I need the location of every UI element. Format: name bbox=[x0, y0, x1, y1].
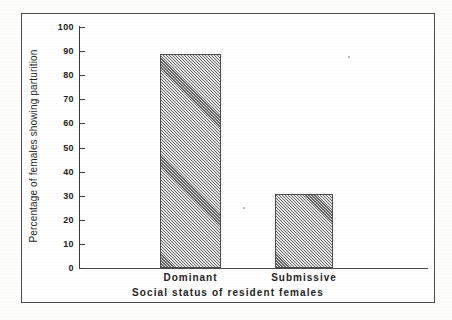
y-axis-tick-label: 40 bbox=[46, 168, 74, 177]
y-axis-tick-label: 0 bbox=[46, 264, 74, 273]
x-axis-category-label: Submissive bbox=[244, 272, 364, 283]
y-axis-title: Percentage of females showing parturitio… bbox=[28, 50, 39, 243]
y-axis-tick bbox=[80, 27, 85, 28]
figure: 0102030405060708090100 DominantSubmissiv… bbox=[0, 0, 452, 320]
y-axis-tick-label: 20 bbox=[46, 216, 74, 225]
y-axis-tick bbox=[80, 99, 85, 100]
scan-speck bbox=[348, 56, 350, 58]
y-axis-tick bbox=[80, 220, 85, 221]
y-axis-tick-label: 90 bbox=[46, 47, 74, 56]
scan-speck bbox=[243, 207, 245, 209]
y-axis-tick bbox=[80, 172, 85, 173]
y-axis-tick-label: 60 bbox=[46, 119, 74, 128]
y-axis-tick-label: 10 bbox=[46, 240, 74, 249]
y-axis-tick bbox=[80, 148, 85, 149]
plot-area: 0102030405060708090100 DominantSubmissiv… bbox=[0, 0, 452, 320]
bar bbox=[160, 54, 221, 268]
y-axis-tick bbox=[80, 75, 85, 76]
bar bbox=[275, 194, 333, 268]
y-axis-tick bbox=[80, 196, 85, 197]
y-axis-tick-label: 50 bbox=[46, 144, 74, 153]
y-axis-title-wrapper: Percentage of females showing parturitio… bbox=[24, 24, 42, 268]
x-axis-category-label: Dominant bbox=[131, 272, 251, 283]
y-axis-tick bbox=[80, 244, 85, 245]
x-axis-title: Social status of resident females bbox=[21, 287, 435, 298]
y-axis-tick bbox=[80, 123, 85, 124]
y-axis-tick-label: 80 bbox=[46, 71, 74, 80]
y-axis-tick-label: 30 bbox=[46, 192, 74, 201]
y-axis-tick-label: 100 bbox=[46, 23, 74, 32]
y-axis-tick-label: 70 bbox=[46, 95, 74, 104]
x-axis-line bbox=[79, 268, 428, 269]
y-axis-tick bbox=[80, 51, 85, 52]
y-axis-tick bbox=[80, 268, 85, 269]
